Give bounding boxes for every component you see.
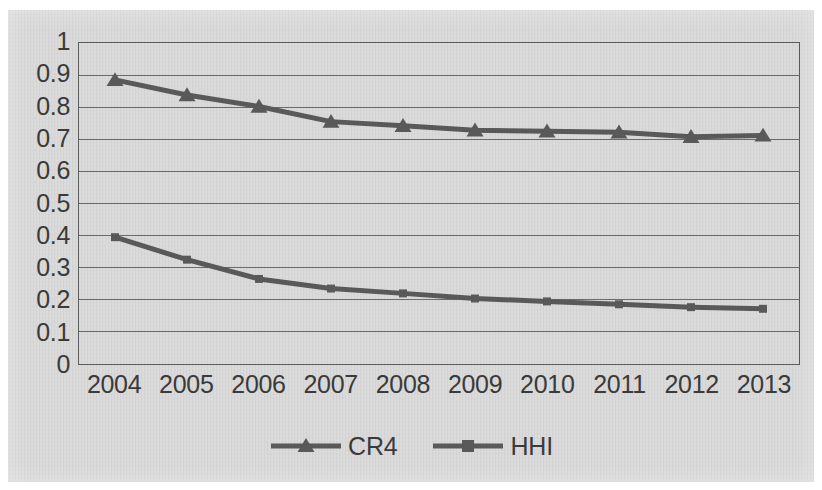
- legend-triangle-marker-icon: [269, 433, 343, 459]
- legend-entry-cr4[interactable]: CR4: [269, 433, 397, 459]
- legend-square-marker-icon: [431, 433, 505, 459]
- x-axis-tick-label: 2004: [74, 370, 154, 398]
- y-axis-tick-label: 1: [8, 29, 70, 54]
- x-axis-tick-label: 2005: [146, 370, 226, 398]
- chart-plot-svg: CR4 2004: 0.885CR4 2005: 0.838CR4 2006: …: [79, 43, 799, 364]
- y-axis-tick-label: 0.5: [8, 191, 70, 216]
- data-point-marker[interactable]: HHI 2005: 0.325: [183, 256, 191, 264]
- chart-figure: 10.90.80.70.60.50.40.30.20.10 CR4 2004: …: [8, 10, 814, 482]
- data-point-marker[interactable]: HHI 2008: 0.22: [399, 289, 407, 297]
- x-axis-tick-label: 2006: [219, 370, 299, 398]
- data-point-marker[interactable]: HHI 2006: 0.265: [255, 275, 263, 283]
- y-axis-tick-label: 0.8: [8, 94, 70, 119]
- x-axis-tick-label: 2013: [724, 370, 804, 398]
- x-axis-tick-label: 2010: [507, 370, 587, 398]
- y-axis-tick-label: 0.3: [8, 255, 70, 280]
- plot-area: CR4 2004: 0.885CR4 2005: 0.838CR4 2006: …: [78, 42, 800, 365]
- x-axis-tick-labels: 2004200520062007200820092010201120122013: [78, 370, 804, 410]
- data-point-marker[interactable]: HHI 2009: 0.204: [471, 295, 479, 303]
- data-point-marker[interactable]: HHI 2004: 0.395: [111, 233, 119, 241]
- y-axis-tick-label: 0.6: [8, 158, 70, 183]
- data-point-marker[interactable]: HHI 2010: 0.195: [543, 297, 551, 305]
- data-point-marker[interactable]: HHI 2007: 0.235: [327, 285, 335, 293]
- data-point-marker[interactable]: HHI 2011: 0.186: [615, 300, 623, 308]
- data-point-marker[interactable]: HHI 2012: 0.177: [687, 303, 695, 311]
- legend-label: CR4: [348, 434, 397, 459]
- y-axis-tick-label: 0.4: [8, 223, 70, 248]
- y-axis-tick-label: 0.9: [8, 61, 70, 86]
- legend-label: HHI: [510, 434, 552, 459]
- chart-legend: CR4HHI: [8, 422, 814, 470]
- data-point-marker[interactable]: HHI 2013: 0.172: [759, 305, 767, 313]
- x-axis-tick-label: 2007: [291, 370, 371, 398]
- legend-marker: [462, 440, 474, 452]
- y-axis-tick-label: 0: [8, 352, 70, 377]
- legend-entry-hhi[interactable]: HHI: [431, 433, 552, 459]
- y-axis-tick-label: 0.1: [8, 320, 70, 345]
- y-axis-tick-label: 0.2: [8, 287, 70, 312]
- y-axis-tick-labels: 10.90.80.70.60.50.40.30.20.10: [8, 10, 70, 482]
- series-line-hhi: [115, 237, 763, 309]
- series-line-cr4: [115, 80, 763, 137]
- x-axis-tick-label: 2011: [580, 370, 660, 398]
- x-axis-tick-label: 2008: [363, 370, 443, 398]
- y-axis-tick-label: 0.7: [8, 126, 70, 151]
- x-axis-tick-label: 2009: [435, 370, 515, 398]
- x-axis-tick-label: 2012: [652, 370, 732, 398]
- series-hhi: HHI 2004: 0.395HHI 2005: 0.325HHI 2006: …: [111, 233, 767, 313]
